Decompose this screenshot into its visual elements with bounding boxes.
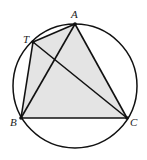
point-A (73, 22, 77, 26)
label-A: A (70, 8, 78, 20)
point-B (19, 116, 23, 120)
label-B: B (10, 116, 17, 128)
shaded-quadrilateral-TACB (21, 24, 127, 118)
label-T: T (23, 33, 30, 45)
geometry-diagram: A T B C (0, 0, 147, 160)
point-C (125, 116, 129, 120)
label-C: C (130, 116, 138, 128)
point-T (31, 40, 35, 44)
